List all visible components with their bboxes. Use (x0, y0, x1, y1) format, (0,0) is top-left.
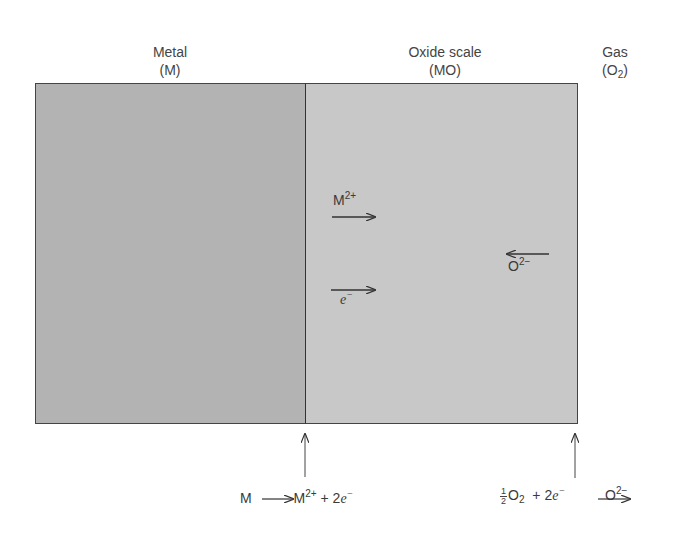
one-half-fraction: 12 (500, 487, 507, 506)
anodic-reaction: M M2+ + 2e− (240, 490, 353, 507)
oxide-ion-label: O2− (508, 258, 530, 274)
arrows-layer (0, 0, 697, 545)
metal-ion-label: M2+ (333, 192, 356, 208)
electron-label: e− (340, 292, 353, 308)
cathodic-reaction: 12O2 + 2e− O2− (500, 487, 627, 506)
